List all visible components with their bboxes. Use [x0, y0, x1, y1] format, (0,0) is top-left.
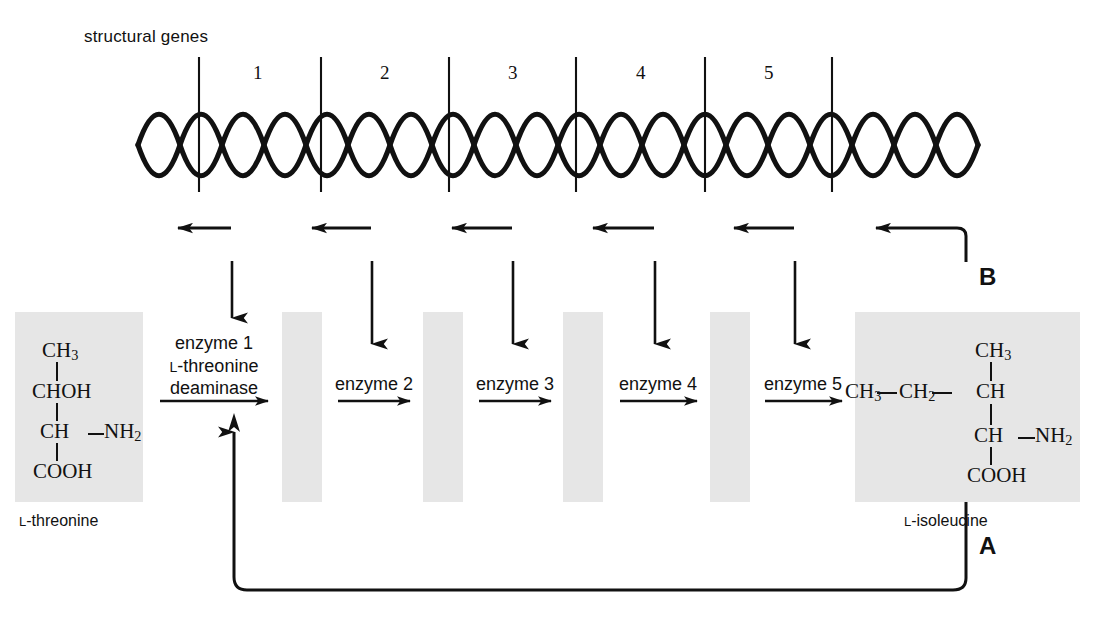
enzyme-5-label: enzyme 5 [763, 374, 843, 395]
threonine-ch3-text: CH3 [42, 338, 78, 362]
box-intermediate-3 [563, 312, 603, 502]
enzyme-1-line2-rest: -threonine [177, 356, 258, 376]
enzyme-1-line2: L-threonine [160, 355, 268, 378]
threonine-nh2: NH2 [104, 419, 141, 445]
enzyme-1-label: enzyme 1 L-threonine deaminase [160, 332, 268, 400]
threonine-ch3: CH3 [42, 338, 78, 364]
isoleucine-chain-ch2-text: CH2 [899, 379, 935, 403]
figure-canvas: structural genes 1 2 3 4 5 enzyme 1 L-th… [0, 0, 1110, 618]
feedback-loop-label: A [979, 532, 996, 560]
isoleucine-chain-ch: CH [976, 379, 1005, 404]
threonine-caption-rest: -threonine [26, 512, 98, 529]
isoleucine-cooh: COOH [967, 463, 1027, 488]
isoleucine-chain-ch2: CH2 [899, 379, 935, 405]
feedback-arrowhead [228, 413, 240, 432]
gene-number-2: 2 [380, 62, 390, 84]
isoleucine-chain-ch3-text: CH3 [845, 379, 881, 403]
gene-number-1: 1 [253, 62, 263, 84]
enzyme-1-line3: deaminase [160, 377, 268, 400]
isoleucine-nh2-text: NH2 [1035, 423, 1072, 447]
structural-genes-title: structural genes [84, 27, 208, 47]
isoleucine-caption: L-isoleucine [904, 512, 988, 531]
box-intermediate-2 [423, 312, 463, 502]
gene-number-5: 5 [764, 62, 774, 84]
threonine-nh2-text: NH2 [104, 419, 141, 443]
gene-number-4: 4 [636, 62, 646, 84]
isoleucine-nh2: NH2 [1035, 423, 1072, 449]
repression-loop-label: B [979, 263, 996, 291]
isoleucine-top-ch3: CH3 [975, 338, 1011, 364]
enzyme-1-line1: enzyme 1 [160, 332, 268, 355]
isoleucine-ch: CH [974, 423, 1003, 448]
isoleucine-chain-ch3: CH3 [845, 379, 881, 405]
threonine-ch: CH [40, 419, 69, 444]
isoleucine-top-ch3-text: CH3 [975, 338, 1011, 362]
enzyme-2-label: enzyme 2 [334, 374, 414, 395]
threonine-choh: CHOH [32, 379, 92, 404]
threonine-cooh: COOH [33, 459, 93, 484]
gene-number-3: 3 [508, 62, 518, 84]
dna-helix [138, 114, 978, 176]
enzyme-4-label: enzyme 4 [618, 374, 698, 395]
box-intermediate-4 [710, 312, 750, 502]
box-intermediate-1 [282, 312, 322, 502]
repression-arrow-row [178, 228, 966, 262]
threonine-caption: L-threonine [19, 512, 98, 531]
isoleucine-caption-rest: -isoleucine [911, 512, 987, 529]
enzyme-3-label: enzyme 3 [475, 374, 555, 395]
